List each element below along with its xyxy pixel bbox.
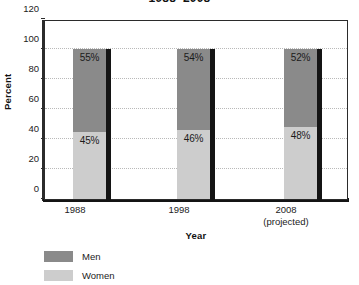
legend-swatch-women-icon bbox=[44, 270, 73, 281]
bar-label-women-2008: 48% bbox=[284, 130, 317, 141]
y-tick-label-0: 0 bbox=[34, 183, 39, 194]
bar-group-1988[interactable]: 55% 45% bbox=[73, 49, 106, 199]
bar-group-1998[interactable]: 54% 46% bbox=[177, 49, 210, 199]
y-tick-mark-100 bbox=[41, 48, 45, 49]
chart-legend: Men Women bbox=[44, 249, 115, 285]
y-tick-mark-40 bbox=[41, 138, 45, 139]
bar-segment-men-2008[interactable]: 52% bbox=[284, 49, 317, 127]
x-tick-label-1988: 1988 bbox=[20, 204, 130, 216]
y-tick-label-60: 60 bbox=[28, 93, 39, 104]
plot-area: 120 100 80 60 40 20 0 55% 45% 54% bbox=[44, 20, 348, 200]
y-tick-mark-120 bbox=[41, 18, 45, 19]
bar-group-2008[interactable]: 52% 48% bbox=[284, 49, 317, 199]
y-axis-title: Percent bbox=[2, 74, 13, 110]
bar-label-women-1998: 46% bbox=[177, 133, 210, 144]
y-tick-mark-20 bbox=[41, 168, 45, 169]
y-tick-mark-60 bbox=[41, 108, 45, 109]
bar-segment-men-1998[interactable]: 54% bbox=[177, 49, 210, 130]
y-tick-label-20: 20 bbox=[28, 153, 39, 164]
y-tick-label-80: 80 bbox=[28, 63, 39, 74]
x-tick-year-2008: 2008 bbox=[275, 204, 296, 215]
bar-label-men-1998: 54% bbox=[177, 52, 210, 63]
legend-item-women[interactable]: Women bbox=[44, 268, 115, 283]
bar-segment-men-1988[interactable]: 55% bbox=[73, 49, 106, 132]
legend-label-women: Women bbox=[82, 270, 115, 281]
y-tick-label-100: 100 bbox=[23, 33, 39, 44]
bar-shadow-1988 bbox=[106, 49, 111, 202]
x-axis-title: Year bbox=[44, 230, 348, 241]
bar-segment-women-1998[interactable]: 46% bbox=[177, 130, 210, 199]
bar-label-men-2008: 52% bbox=[284, 52, 317, 63]
y-tick-label-120: 120 bbox=[23, 3, 39, 14]
bar-segment-women-2008[interactable]: 48% bbox=[284, 127, 317, 199]
legend-label-men: Men bbox=[82, 251, 100, 262]
x-tick-label-1998: 1998 bbox=[124, 204, 234, 216]
x-tick-year-1998: 1998 bbox=[168, 204, 189, 215]
y-tick-mark-0 bbox=[41, 198, 45, 199]
legend-swatch-men-icon bbox=[44, 251, 73, 262]
y-tick-label-40: 40 bbox=[28, 123, 39, 134]
bar-label-women-1988: 45% bbox=[73, 135, 106, 146]
x-tick-year-1988: 1988 bbox=[64, 204, 85, 215]
chart-title: 1988–2008 bbox=[0, 0, 359, 5]
y-tick-mark-80 bbox=[41, 78, 45, 79]
bar-label-men-1988: 55% bbox=[73, 52, 106, 63]
x-tick-sublabel-2008: (projected) bbox=[231, 216, 341, 228]
bar-shadow-2008 bbox=[317, 49, 322, 202]
bar-segment-women-1988[interactable]: 45% bbox=[73, 132, 106, 200]
legend-item-men[interactable]: Men bbox=[44, 249, 115, 264]
bar-shadow-1998 bbox=[210, 49, 215, 202]
x-tick-label-2008: 2008 (projected) bbox=[231, 204, 341, 227]
